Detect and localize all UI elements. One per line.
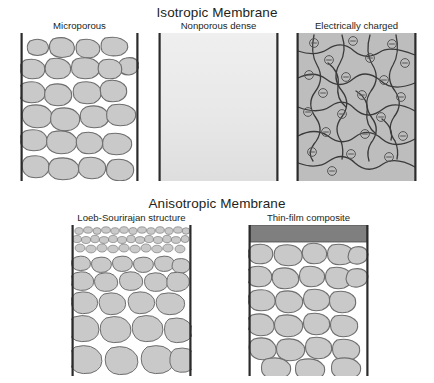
anisotropic-section-title: Anisotropic Membrane <box>0 196 434 211</box>
panel-thin-film-composite <box>248 225 369 376</box>
panel-label-electrically-charged: Electrically charged <box>296 20 417 31</box>
thin-film-layer <box>250 225 367 242</box>
thin-film-composite-illustration <box>248 225 369 376</box>
panel-label-nonporous-dense: Nonporous dense <box>158 20 279 31</box>
panel-loeb-sourirajan <box>71 225 192 376</box>
nonporous-dense-illustration <box>158 33 279 181</box>
panel-nonporous-dense <box>158 33 279 181</box>
panel-electrically-charged <box>296 33 417 181</box>
electrically-charged-illustration <box>296 33 417 181</box>
dense-skin-layer <box>73 227 190 253</box>
loeb-sourirajan-illustration <box>71 225 192 376</box>
panel-microporous <box>20 33 139 181</box>
membrane-types-diagram: Isotropic Membrane Microporous Nonporous… <box>0 0 434 383</box>
panel-label-thin-film-composite: Thin-film composite <box>248 212 369 223</box>
isotropic-section-title: Isotropic Membrane <box>0 5 434 20</box>
microporous-illustration <box>20 33 139 181</box>
panel-label-loeb-sourirajan: Loeb-Sourirajan structure <box>61 212 202 223</box>
panel-label-microporous: Microporous <box>20 20 139 31</box>
